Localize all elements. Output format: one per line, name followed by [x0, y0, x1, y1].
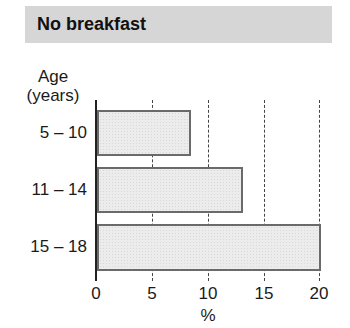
chart-title: No breakfast [37, 14, 146, 35]
category-label: 5 – 10 [7, 123, 87, 143]
bar-15-18 [97, 224, 321, 271]
y-axis-label-line2: (years) [18, 86, 88, 105]
category-label: 15 – 18 [7, 237, 87, 257]
category-label: 11 – 14 [7, 180, 87, 200]
bar-5-10 [97, 110, 191, 156]
x-tick-label: 0 [81, 284, 111, 304]
x-axis-label: % [193, 306, 223, 326]
x-tick-label: 10 [193, 284, 223, 304]
x-tick-label: 5 [137, 284, 167, 304]
x-tick-label: 20 [304, 284, 334, 304]
x-tick-label: 15 [249, 284, 279, 304]
bar-11-14 [97, 167, 243, 213]
y-axis-line [95, 100, 97, 281]
y-axis-label: Age (years) [18, 67, 88, 105]
title-band: No breakfast [25, 6, 332, 43]
y-axis-label-line1: Age [18, 67, 88, 86]
